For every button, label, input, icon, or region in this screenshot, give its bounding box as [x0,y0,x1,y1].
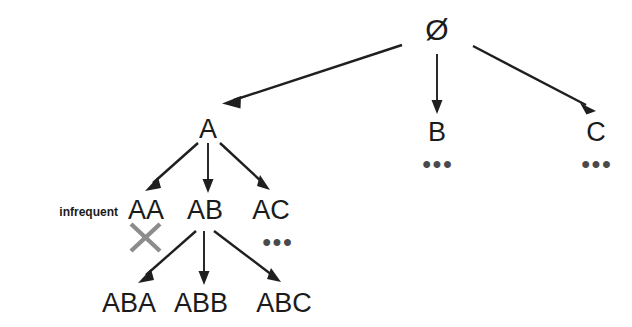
node-c: C [586,117,606,147]
ellipsis-under-b: ••• [422,150,453,177]
annotation-infrequent: infrequent [59,205,118,219]
prune-cross-icon [131,224,160,251]
node-ab: AB [187,195,223,225]
edge-root-to-c [473,46,596,115]
edge-a-to-ac [220,143,270,190]
node-abb: ABB [174,288,228,318]
node-ac: AC [252,195,290,225]
node-root: Ø [425,13,448,46]
candidate-itemset-tree-diagram: Ø A B C AA AB AC ABA ABB ABC ••• ••• •••… [0,0,632,327]
ellipsis-under-ac: ••• [262,228,293,255]
edge-root-to-b [432,54,443,114]
edge-root-to-a [222,45,402,109]
node-aba: ABA [102,288,156,318]
node-aa: AA [128,195,164,225]
node-abc: ABC [256,288,312,318]
tree-svg-canvas: Ø A B C AA AB AC ABA ABB ABC ••• ••• •••… [0,0,632,327]
node-b: B [428,117,446,147]
edge-a-to-aa [145,143,198,191]
ellipsis-under-c: ••• [581,150,612,177]
node-a: A [199,114,217,144]
edge-a-to-ab [203,143,214,193]
edge-ab-to-abb [199,231,210,285]
